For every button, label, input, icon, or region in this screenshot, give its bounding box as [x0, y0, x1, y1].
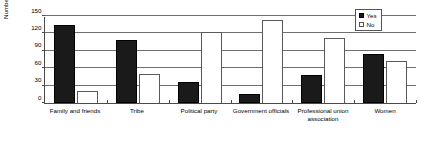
bar-no: [324, 38, 345, 103]
legend-swatch-no-icon: [359, 22, 364, 27]
legend-item-no: No: [359, 21, 377, 28]
bar-chart: Number of Candidates 0306090120150 Famil…: [0, 0, 426, 152]
x-axis-tickmark: [107, 100, 108, 103]
bar-yes: [178, 82, 199, 103]
bar-yes: [239, 94, 260, 103]
x-axis-tickmark: [169, 100, 170, 103]
bar-group: [230, 17, 292, 103]
bar-group: [107, 17, 169, 103]
chart-legend: Yes No: [355, 9, 382, 31]
bar-yes: [54, 25, 75, 103]
bar-group: [169, 17, 231, 103]
bar-yes: [301, 75, 322, 103]
y-axis-tick-label: 90: [35, 41, 42, 48]
x-axis-category-label: Professional union association: [292, 107, 354, 124]
x-axis-category-label: Tribe: [106, 107, 168, 124]
x-axis-labels: Family and friendsTribePolitical partyGo…: [44, 107, 416, 124]
legend-label-yes: Yes: [367, 12, 377, 19]
y-axis-tick-label: 60: [35, 58, 42, 65]
y-axis-tick-label: 120: [31, 23, 41, 30]
x-axis-category-label: Government officials: [230, 107, 292, 124]
bar-group: [45, 17, 107, 103]
x-axis-category-label: Women: [354, 107, 416, 124]
bar-no: [77, 91, 98, 103]
y-axis-title: Number of Candidates: [2, 0, 14, 30]
bar-yes: [363, 54, 384, 103]
x-axis-tickmark: [292, 100, 293, 103]
legend-item-yes: Yes: [359, 12, 377, 19]
x-axis-category-label: Political party: [168, 107, 230, 124]
x-axis-category-label: Family and friends: [44, 107, 106, 124]
legend-label-no: No: [367, 21, 375, 28]
bar-no: [262, 20, 283, 103]
legend-swatch-yes-icon: [359, 13, 364, 18]
bar-no: [139, 74, 160, 103]
y-axis-tickmark: [42, 15, 45, 16]
bar-no: [201, 32, 222, 103]
y-axis-tick-label: 0: [38, 93, 41, 100]
x-axis-tickmark: [354, 100, 355, 103]
y-axis-tick-label: 150: [31, 6, 41, 13]
bar-yes: [116, 40, 137, 103]
x-axis-tickmark: [231, 100, 232, 103]
y-axis-tick-label: 30: [35, 76, 42, 83]
bar-no: [386, 61, 407, 103]
x-axis-tickmark: [416, 100, 417, 103]
bar-group: [292, 17, 354, 103]
